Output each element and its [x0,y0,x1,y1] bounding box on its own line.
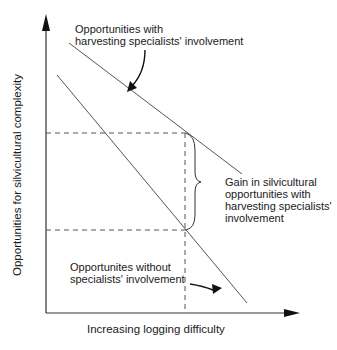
pointer-arrow-lower-head-icon [212,284,222,294]
pointer-arrow-lower [190,284,213,290]
gain-label-line4: involvement [225,212,332,224]
y-axis-label: Opportunities for silvicultural complexi… [11,74,23,276]
pointer-arrow-upper [132,50,145,86]
upper-line-label: Opportunities with harvesting specialist… [75,23,243,47]
gain-label: Gain in silvicultural opportunities with… [225,176,332,224]
gain-label-line3: harvesting specialists' [225,200,332,212]
upper-line-label-line1: Opportunities with [75,23,243,35]
diagram-canvas [0,0,337,350]
lower-line-label-line1: Opportunites without [70,261,185,273]
gain-label-line2: opportunities with [225,188,332,200]
y-axis-arrow-icon [42,14,50,31]
lower-line-label: Opportunites without specialists' involv… [70,261,185,285]
line-with-specialists [69,43,242,174]
upper-line-label-line2: harvesting specialists' involvement [75,35,243,47]
x-axis-arrow-icon [284,309,300,317]
lower-line-label-line2: specialists' involvement [70,273,185,285]
gain-brace [186,133,201,230]
x-axis-label: Increasing logging difficulty [87,323,225,335]
gain-label-line1: Gain in silvicultural [225,176,332,188]
